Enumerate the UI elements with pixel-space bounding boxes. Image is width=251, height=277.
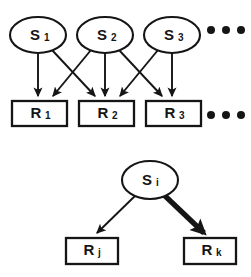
edge-si-rk bbox=[163, 194, 204, 233]
node-r3: R 3 bbox=[146, 101, 201, 126]
node-rk: R k bbox=[184, 238, 236, 264]
node-r1-label: R bbox=[31, 104, 42, 121]
node-s2-label: S bbox=[97, 26, 107, 43]
node-s2-subscript: 2 bbox=[111, 32, 117, 43]
node-rj-subscript: j bbox=[97, 247, 101, 258]
ellipsis-dot bbox=[222, 26, 230, 34]
ellipsis-dot bbox=[222, 111, 230, 119]
node-s3-label: S bbox=[164, 26, 174, 43]
ellipsis-dot bbox=[237, 111, 245, 119]
node-r3-label: R bbox=[165, 104, 176, 121]
node-si-label: S bbox=[142, 171, 152, 188]
diagram-canvas: S 1 S 2 S 3 R 1 bbox=[0, 0, 251, 277]
top-panel-edges bbox=[38, 50, 172, 96]
response-row-ellipsis bbox=[207, 111, 245, 119]
ellipsis-dot bbox=[207, 111, 215, 119]
edge-si-rj bbox=[97, 194, 137, 233]
node-rj-label: R bbox=[84, 241, 95, 258]
node-s1-label: S bbox=[30, 26, 40, 43]
node-rk-subscript: k bbox=[216, 247, 222, 258]
node-r3-subscript: 3 bbox=[179, 110, 185, 121]
node-s3: S 3 bbox=[144, 17, 200, 53]
node-r2-label: R bbox=[98, 104, 109, 121]
ellipsis-dot bbox=[207, 26, 215, 34]
top-panel-response-nodes: R 1 R 2 R 3 bbox=[12, 101, 201, 126]
bottom-panel-response-nodes: R j R k bbox=[66, 238, 236, 264]
node-r1: R 1 bbox=[12, 101, 67, 126]
node-r2: R 2 bbox=[79, 101, 134, 126]
node-rj: R j bbox=[66, 238, 118, 264]
top-panel: S 1 S 2 S 3 R 1 bbox=[10, 17, 245, 126]
bottom-panel-stimulus-nodes: S i bbox=[122, 161, 178, 199]
diagram-root: S 1 S 2 S 3 R 1 bbox=[0, 0, 251, 277]
node-rk-label: R bbox=[202, 241, 213, 258]
node-s2: S 2 bbox=[77, 17, 133, 53]
node-si-subscript: i bbox=[156, 177, 159, 188]
node-s1-subscript: 1 bbox=[44, 32, 50, 43]
bottom-panel: S i R j R k bbox=[66, 161, 236, 264]
top-panel-stimulus-nodes: S 1 S 2 S 3 bbox=[10, 17, 200, 53]
node-r1-subscript: 1 bbox=[45, 110, 51, 121]
stimulus-row-ellipsis bbox=[207, 26, 245, 34]
node-s3-subscript: 3 bbox=[178, 32, 184, 43]
ellipsis-dot bbox=[237, 26, 245, 34]
node-si: S i bbox=[122, 161, 178, 199]
node-r2-subscript: 2 bbox=[112, 110, 118, 121]
node-s1: S 1 bbox=[10, 17, 66, 53]
